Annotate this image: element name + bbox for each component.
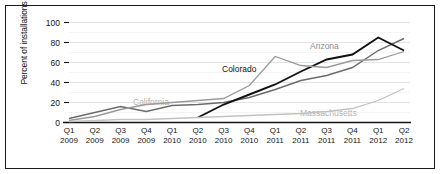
series-line-massachusetts bbox=[69, 89, 404, 122]
chart-figure: Percent of installations 100806040200 Q1… bbox=[0, 0, 440, 174]
series-line-california bbox=[69, 52, 404, 121]
series-line-colorado bbox=[198, 38, 404, 118]
chart-plot-area bbox=[0, 0, 440, 174]
series-line-arizona bbox=[69, 39, 404, 119]
